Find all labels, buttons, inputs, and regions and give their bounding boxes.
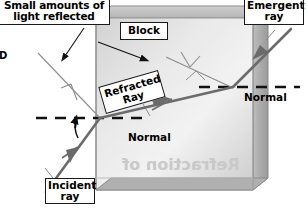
leader-incident-label xyxy=(45,168,53,178)
label-angle-of-incidence: i xyxy=(74,120,77,130)
block-top-face xyxy=(96,6,268,18)
label-small-amounts-reflected: Small amounts of light reflected xyxy=(0,0,110,25)
label-emergent-ray: Emergent ray xyxy=(244,0,304,25)
label-incident-ray: Incident ray xyxy=(45,178,95,204)
leader-reflected-label xyxy=(63,28,84,59)
label-edge-fragment: D xyxy=(0,50,7,61)
block-bottom-bevel xyxy=(96,178,268,190)
label-normal-left: Normal xyxy=(128,131,171,143)
label-normal-right: Normal xyxy=(244,91,287,103)
bleed-through-artifact: Refraction of xyxy=(106,152,256,178)
refraction-diagram: Refraction of Small amounts of light ref… xyxy=(0,0,307,210)
reflected-ray-entry xyxy=(38,53,100,118)
label-block: Block xyxy=(120,22,168,40)
